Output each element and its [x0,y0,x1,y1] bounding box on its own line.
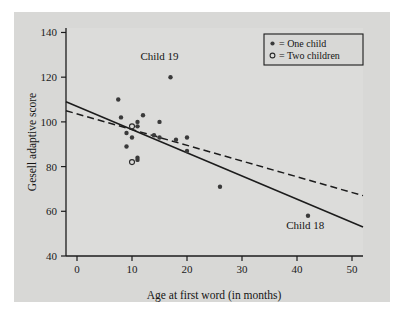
annotation-child-19: Child 19 [140,50,179,62]
data-points [116,75,310,218]
data-point-one-child [157,135,161,139]
x-axis-title: Age at first word (in months) [147,289,282,302]
legend-marker-one-child [270,41,274,45]
data-point-one-child [135,158,139,162]
data-point-one-child [168,75,172,79]
legend-label-two-children: = Two children [279,50,340,61]
data-point-one-child [141,113,145,117]
y-tick-label: 140 [41,26,58,38]
data-point-one-child [174,138,178,142]
regression-line-all-data-fit [66,102,363,227]
data-point-one-child [306,214,310,218]
data-point-one-child [124,131,128,135]
regression-lines [66,102,363,227]
data-point-one-child [218,185,222,189]
legend-label-one-child: = One child [279,38,326,49]
x-tick-label: 50 [347,263,359,275]
legend-marker-two-children [270,53,275,58]
data-point-one-child [157,120,161,124]
data-point-one-child [135,120,139,124]
data-point-one-child [185,135,189,139]
y-tick-label: 100 [41,116,58,128]
annotation-child-18: Child 18 [286,219,325,231]
x-tick-label: 20 [182,263,194,275]
x-tick-label: 30 [237,263,249,275]
x-tick-labels: 01020304050 [74,263,358,275]
figure-container: 406080100120140 01020304050 Child 19Chil… [0,0,404,314]
y-tick-labels: 406080100120140 [41,26,58,262]
data-point-two-children [130,160,135,165]
y-tick-label: 80 [46,161,58,173]
data-point-one-child [119,115,123,119]
data-point-two-children [130,124,135,129]
point-annotations: Child 19Child 18 [140,50,324,231]
x-tick-label: 40 [292,263,304,275]
data-point-one-child [152,133,156,137]
y-axis-title: Gesell adaptive score [26,93,39,191]
x-tick-label: 0 [74,263,80,275]
y-tick-label: 40 [46,250,58,262]
regression-line-outliers-removed-fit [66,111,363,196]
data-point-one-child [185,149,189,153]
x-tick-label: 10 [127,263,139,275]
y-tick-label: 60 [46,205,58,217]
data-point-one-child [130,135,134,139]
data-point-one-child [116,97,120,101]
data-point-one-child [124,144,128,148]
legend: = One child = Two children [264,34,363,65]
scatter-chart: 406080100120140 01020304050 Child 19Chil… [0,0,404,314]
y-tick-label: 120 [41,71,58,83]
data-point-one-child [135,124,139,128]
